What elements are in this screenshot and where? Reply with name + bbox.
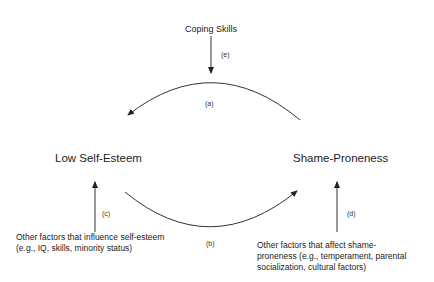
note-self-esteem-factors: Other factors that influence self-esteem… xyxy=(16,232,164,254)
label-e: (e) xyxy=(221,51,230,58)
label-d: (d) xyxy=(347,210,356,217)
arc-a xyxy=(128,83,300,120)
note-self-esteem-line2: (e.g., IQ, skills, minority status) xyxy=(16,243,164,254)
note-self-esteem-line1: Other factors that influence self-esteem xyxy=(16,232,164,243)
note-shame-line2: proneness (e.g., temperament, parental xyxy=(257,251,406,262)
label-c: (c) xyxy=(102,210,110,217)
node-coping-skills: Coping Skills xyxy=(185,24,237,34)
arc-b xyxy=(125,191,297,227)
node-low-self-esteem: Low Self-Esteem xyxy=(55,152,142,164)
note-shame-line3: socialization, cultural factors) xyxy=(257,262,406,273)
label-a: (a) xyxy=(205,100,214,107)
note-shame-factors: Other factors that affect shame- pronene… xyxy=(257,240,406,273)
node-shame-proneness: Shame-Proneness xyxy=(293,152,388,164)
label-b: (b) xyxy=(206,240,215,247)
note-shame-line1: Other factors that affect shame- xyxy=(257,240,406,251)
